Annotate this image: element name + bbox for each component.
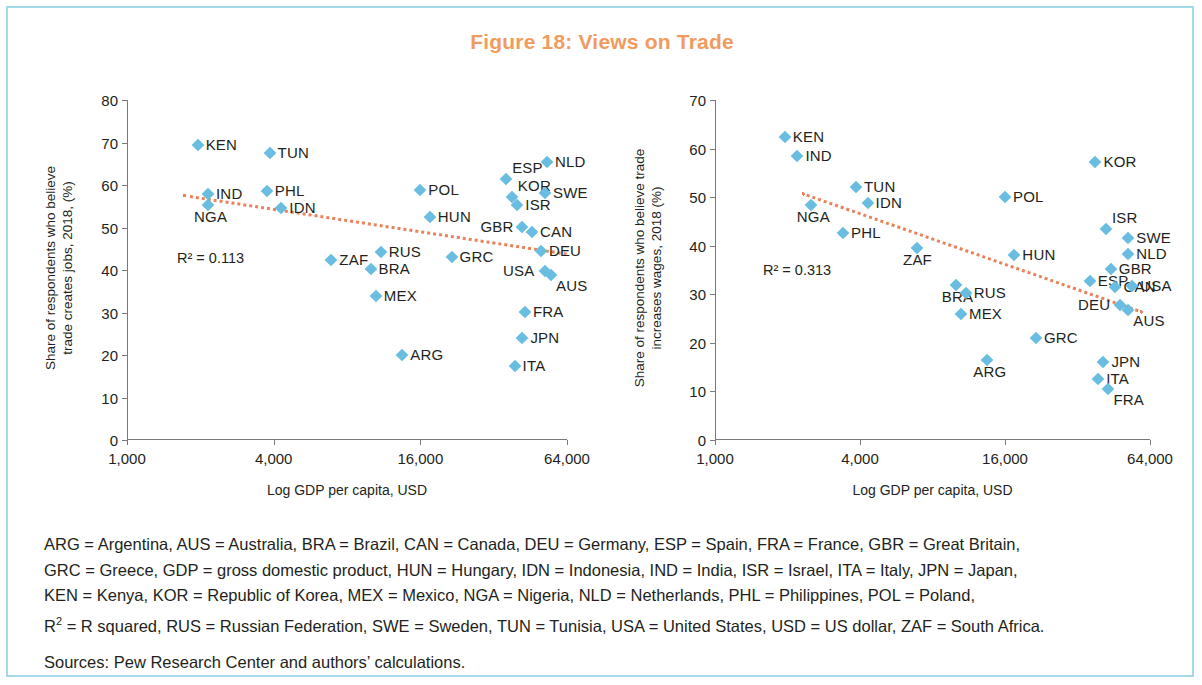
data-point-HUN[interactable] — [423, 211, 436, 224]
footnote-r-prefix: R — [44, 616, 56, 634]
y-axis-title-left-line2: trade creates jobs, 2018, (%) — [60, 181, 75, 354]
data-point-PHL[interactable] — [260, 184, 273, 197]
figure-title: Figure 18: Views on Trade — [8, 30, 1196, 54]
y-tick-label-70: 70 — [689, 92, 706, 109]
y-tick-plot-left-60 — [122, 185, 127, 186]
x-tick-label-16000: 16,000 — [982, 450, 1028, 467]
data-point-ESP[interactable] — [1083, 275, 1096, 288]
data-label-ARG: ARG — [410, 346, 443, 363]
data-point-IND[interactable] — [791, 150, 804, 163]
y-tick-plot-left-30 — [122, 313, 127, 314]
footnote-line-1: ARG = Argentina, AUS = Australia, BRA = … — [44, 532, 1164, 558]
y-tick-label-10: 10 — [689, 383, 706, 400]
data-label-FRA: FRA — [1113, 391, 1144, 408]
data-label-ZAF: ZAF — [903, 251, 932, 268]
data-point-DEU[interactable] — [535, 245, 548, 258]
footnote-r-rest: = R squared, RUS = Russian Federation, S… — [62, 616, 1044, 634]
data-label-FRA: FRA — [533, 303, 564, 320]
y-tick-plot-left-10 — [122, 398, 127, 399]
y-tick-plot-left-40 — [122, 270, 127, 271]
y-tick-plot-right-30 — [710, 294, 715, 295]
y-tick-label-40: 40 — [101, 262, 118, 279]
data-point-SWE[interactable] — [1122, 232, 1135, 245]
data-point-JPN[interactable] — [1097, 356, 1110, 369]
x-tick-label-1000: 1,000 — [696, 450, 734, 467]
data-point-ISR[interactable] — [511, 199, 524, 212]
data-label-SWE: SWE — [553, 184, 588, 201]
y-tick-label-60: 60 — [101, 177, 118, 194]
data-label-MEX: MEX — [384, 287, 417, 304]
y-axis-title-right: Share of respondents who believe trade i… — [631, 148, 665, 388]
data-label-JPN: JPN — [1111, 353, 1140, 370]
data-label-RUS: RUS — [974, 284, 1006, 301]
data-point-ZAF[interactable] — [325, 254, 338, 267]
data-label-POL: POL — [428, 181, 459, 198]
y-tick-label-0: 0 — [698, 432, 706, 449]
data-point-ITA[interactable] — [508, 360, 521, 373]
data-point-KEN[interactable] — [778, 131, 791, 144]
data-label-NGA: NGA — [797, 208, 830, 225]
footnote-sources: Sources: Pew Research Center and authors… — [44, 650, 1164, 676]
data-point-JPN[interactable] — [516, 332, 529, 345]
figure-frame: Figure 18: Views on Trade Share of respo… — [6, 6, 1194, 677]
y-tick-label-20: 20 — [101, 347, 118, 364]
y-tick-plot-right-20 — [710, 343, 715, 344]
y-axis-title-left: Share of respondents who believe trade c… — [42, 148, 76, 388]
data-point-ITA[interactable] — [1092, 372, 1105, 385]
chart-panel-left: Share of respondents who believe trade c… — [22, 88, 622, 518]
data-point-TUN[interactable] — [850, 181, 863, 194]
y-tick-plot-right-70 — [710, 100, 715, 101]
data-point-GRC[interactable] — [445, 251, 458, 264]
data-point-TUN[interactable] — [263, 147, 276, 160]
y-axis-right — [715, 100, 716, 440]
data-point-MEX[interactable] — [955, 307, 968, 320]
r-squared-label: R² = 0.313 — [763, 262, 831, 278]
x-tick-plot-right-4000 — [860, 440, 861, 445]
y-tick-label-10: 10 — [101, 389, 118, 406]
y-axis-title-right-line2: increases wages, 2018 (%) — [649, 187, 664, 350]
data-point-PHL[interactable] — [837, 226, 850, 239]
data-point-RUS[interactable] — [374, 245, 387, 258]
y-tick-label-30: 30 — [101, 304, 118, 321]
data-label-BRA: BRA — [379, 260, 410, 277]
y-tick-label-60: 60 — [689, 140, 706, 157]
chart-panel-right: Share of respondents who believe trade i… — [613, 88, 1198, 518]
x-tick-label-64000: 64,000 — [544, 450, 590, 467]
data-point-POL[interactable] — [999, 191, 1012, 204]
data-label-ISR: ISR — [1112, 209, 1138, 226]
data-point-GRC[interactable] — [1030, 332, 1043, 345]
data-point-FRA[interactable] — [519, 305, 532, 318]
y-tick-plot-right-10 — [710, 391, 715, 392]
data-label-ZAF: ZAF — [339, 251, 368, 268]
y-tick-label-20: 20 — [689, 334, 706, 351]
x-tick-plot-left-4000 — [274, 440, 275, 445]
data-point-ISR[interactable] — [1100, 223, 1113, 236]
x-tick-plot-left-64000 — [567, 440, 568, 445]
data-point-KOR[interactable] — [1089, 156, 1102, 169]
data-label-IND: IND — [805, 147, 831, 164]
data-point-ESP[interactable] — [500, 173, 513, 186]
data-point-POL[interactable] — [414, 184, 427, 197]
data-label-ISR: ISR — [525, 196, 551, 213]
data-label-USA: USA — [503, 262, 534, 279]
y-tick-label-70: 70 — [101, 134, 118, 151]
x-tick-plot-left-16000 — [420, 440, 421, 445]
y-tick-plot-right-60 — [710, 149, 715, 150]
data-label-KOR: KOR — [1103, 153, 1136, 170]
data-label-SWE: SWE — [1136, 229, 1171, 246]
data-label-ARG: ARG — [973, 363, 1006, 380]
y-tick-plot-left-80 — [122, 100, 127, 101]
data-point-NLD[interactable] — [1122, 248, 1135, 261]
data-label-GRC: GRC — [1044, 329, 1078, 346]
data-label-KEN: KEN — [793, 128, 824, 145]
data-label-HUN: HUN — [438, 208, 471, 225]
data-point-ARG[interactable] — [396, 349, 409, 362]
y-tick-plot-right-40 — [710, 246, 715, 247]
data-label-GBR: GBR — [480, 218, 513, 235]
data-point-MEX[interactable] — [369, 290, 382, 303]
x-tick-label-16000: 16,000 — [397, 450, 443, 467]
data-point-HUN[interactable] — [1008, 249, 1021, 262]
x-tick-plot-right-1000 — [715, 440, 716, 445]
data-point-KEN[interactable] — [191, 138, 204, 151]
data-point-IDN[interactable] — [861, 197, 874, 210]
